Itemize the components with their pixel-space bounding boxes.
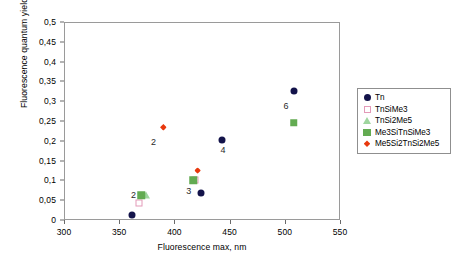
open-triangle-icon xyxy=(362,116,372,125)
chart-root: 00,050,10,150,20,250,30,350,40,450,5 Flu… xyxy=(0,0,454,279)
legend-label: TnSi2Me5 xyxy=(375,116,412,125)
y-tick-label: 0,1 xyxy=(44,175,56,185)
y-tick-label: 0,15 xyxy=(39,156,56,166)
y-tick-label: 0,2 xyxy=(44,136,56,146)
legend-item[interactable]: Me3SiTnSiMe3 xyxy=(362,127,447,139)
x-tick-mark xyxy=(230,220,231,224)
x-tick-label: 300 xyxy=(57,227,71,237)
x-tick-mark xyxy=(64,220,65,224)
y-tick-mark xyxy=(60,140,64,141)
x-tick-mark xyxy=(340,220,341,224)
y-tick-mark xyxy=(60,101,64,102)
x-tick-label: 350 xyxy=(112,227,126,237)
x-tick-mark xyxy=(285,220,286,224)
y-tick-mark xyxy=(60,41,64,42)
data-point-filled-circle xyxy=(290,88,297,95)
x-tick-label: 400 xyxy=(167,227,181,237)
y-tick-mark xyxy=(60,121,64,122)
legend-item[interactable]: TnSiMe3 xyxy=(362,104,447,116)
y-tick-mark xyxy=(60,81,64,82)
data-point-filled-square xyxy=(138,192,146,200)
x-tick-label: 500 xyxy=(278,227,292,237)
x-tick-label: 550 xyxy=(333,227,347,237)
point-annotation: 6 xyxy=(283,101,288,111)
data-point-filled-circle xyxy=(197,190,204,197)
filled-diamond-icon xyxy=(362,139,372,148)
y-tick-label: 0,3 xyxy=(44,96,56,106)
point-annotation: 4 xyxy=(220,145,225,155)
y-tick-label: 0,25 xyxy=(39,116,56,126)
point-annotation: 2 xyxy=(131,190,136,200)
y-tick-label: 0,4 xyxy=(44,57,56,67)
legend-label: TnSiMe3 xyxy=(375,105,407,114)
y-tick-mark xyxy=(60,61,64,62)
y-tick-mark xyxy=(60,160,64,161)
legend-item[interactable]: Me5Si2TnSi2Me5 xyxy=(362,138,447,150)
y-tick-mark xyxy=(60,180,64,181)
data-point-filled-circle xyxy=(129,211,136,218)
filled-circle-icon xyxy=(362,93,372,102)
x-tick-mark xyxy=(119,220,120,224)
y-tick-label: 0,45 xyxy=(39,37,56,47)
x-axis: 300350400450500550 xyxy=(0,220,454,240)
legend-label: Tn xyxy=(375,93,384,102)
x-tick-mark xyxy=(174,220,175,224)
y-tick-label: 0,5 xyxy=(44,17,56,27)
data-point-open-square xyxy=(136,199,143,206)
y-tick-label: 0,05 xyxy=(39,195,56,205)
open-square-icon xyxy=(362,105,372,114)
x-axis-title: Fluorescence max, nm xyxy=(64,242,340,252)
filled-square-icon xyxy=(362,128,372,137)
y-tick-mark xyxy=(60,22,64,23)
legend-item[interactable]: Tn xyxy=(362,92,447,104)
legend-label: Me5Si2TnSi2Me5 xyxy=(375,139,439,148)
y-tick-mark xyxy=(60,200,64,201)
data-point-filled-square xyxy=(290,119,298,127)
point-annotation: 3 xyxy=(186,186,191,196)
x-tick-label: 450 xyxy=(222,227,236,237)
point-annotation: 2 xyxy=(151,137,156,147)
legend-item[interactable]: TnSi2Me5 xyxy=(362,115,447,127)
y-tick-label: 0,35 xyxy=(39,76,56,86)
y-axis-title: Fluorescence quantum yield xyxy=(19,0,33,143)
data-point-filled-square xyxy=(189,176,197,184)
legend-label: Me3SiTnSiMe3 xyxy=(375,128,430,137)
legend: TnTnSiMe3TnSi2Me5Me3SiTnSiMe3Me5Si2TnSi2… xyxy=(357,88,451,154)
data-point-filled-circle xyxy=(218,137,225,144)
